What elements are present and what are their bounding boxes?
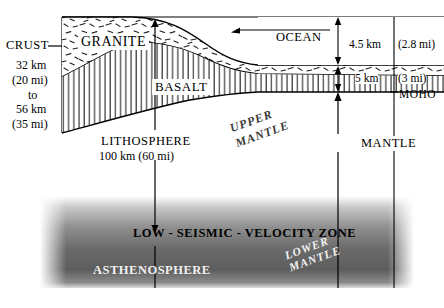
moho-label: MOHO [399, 88, 436, 100]
oceanic-crust-mi: (3 mi) [398, 72, 426, 84]
basalt-label: BASALT [152, 79, 210, 95]
crust-thickness-line-2: (20 mi) [12, 73, 48, 88]
crust-label: CRUST [6, 38, 49, 53]
crust-thickness-line-5: (35 mi) [12, 117, 48, 132]
ocean-depth-km: 4.5 km [349, 38, 381, 50]
mantle-label: MANTLE [361, 136, 416, 151]
asthenosphere-label: ASTHENOSPHERE [93, 263, 211, 278]
crust-thickness-line-3: to [28, 88, 37, 103]
ocean-depth-mi: (2.8 mi) [398, 38, 435, 50]
oceanic-crust-km: 5 km [355, 72, 378, 84]
crust-thickness-line-4: 56 km [16, 102, 46, 117]
ocean-label: OCEAN [276, 30, 322, 45]
crust-thickness-line-1: 32 km [16, 58, 46, 73]
lithosphere-depth: 100 km (60 mi) [99, 149, 174, 164]
diagram-canvas: CRUST 32 km (20 mi) to 56 km (35 mi) GRA… [0, 0, 444, 308]
lithosphere-label: LITHOSPHERE [101, 134, 191, 149]
granite-label: GRANITE [78, 34, 149, 50]
